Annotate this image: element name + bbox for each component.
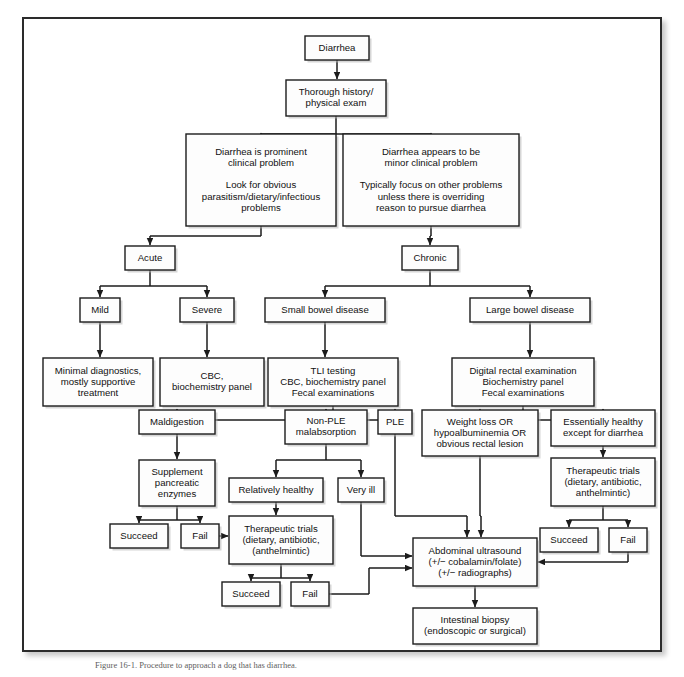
node-label: clinical problem (228, 157, 294, 168)
node-label: physical exam (306, 97, 367, 108)
node-label: Large bowel disease (486, 304, 574, 315)
node-label: (dietary, antibiotic, (564, 476, 641, 487)
node-fail_l: Fail (181, 524, 222, 551)
node-label: parasitism/dietary/infectious (202, 191, 321, 202)
node-fail_r: Fail (609, 528, 650, 555)
node-fail_b: Fail (291, 582, 332, 609)
node-minimal: Minimal diagnostics,mostly supportivetre… (43, 358, 156, 409)
node-label: (dietary, antibiotic, (242, 534, 319, 545)
node-acute: Acute (125, 246, 178, 273)
node-label: Succeed (120, 530, 157, 541)
node-nonple: Non-PLEmalabsorption (285, 410, 370, 447)
node-ultrasound: Abdominal ultrasound(+/− cobalamin/folat… (413, 538, 540, 589)
node-succeed_l: Succeed (110, 524, 171, 551)
node-label: Small bowel disease (281, 304, 368, 315)
node-label: reason to pursue diarrhea (376, 202, 487, 213)
node-label: Digital rectal examination (469, 365, 576, 376)
node-history: Thorough history/physical exam (286, 80, 389, 119)
node-label: Fail (302, 588, 317, 599)
node-label: Weight loss OR (447, 416, 514, 427)
node-label: Fecal examinations (482, 387, 565, 398)
node-largebowel: Large bowel disease (470, 298, 593, 325)
node-succeed_b: Succeed (222, 582, 283, 609)
figure-caption: Figure 16-1. Procedure to approach a dog… (95, 660, 615, 670)
node-label: CBC, (201, 370, 224, 381)
node-label: Acute (138, 252, 163, 263)
node-label: Diarrhea appears to be (382, 146, 480, 157)
node-label: Maldigestion (150, 416, 204, 427)
node-label: (endoscopic or surgical) (424, 625, 526, 636)
node-label: Non-PLE (307, 415, 346, 426)
node-succeed_r: Succeed (540, 528, 601, 555)
node-label: Chronic (413, 252, 446, 263)
node-label: Severe (192, 304, 222, 315)
node-supplement: Supplementpancreaticenzymes (139, 460, 218, 509)
node-prominent: Diarrhea is prominentclinical problemLoo… (186, 134, 339, 229)
node-label: Diarrhea is prominent (215, 146, 307, 157)
node-label: unless there is overriding (378, 191, 485, 202)
node-layer: DiarrheaThorough history/physical examDi… (43, 36, 658, 647)
node-label: enzymes (158, 488, 197, 499)
node-label: hypoalbuminemia OR (434, 427, 526, 438)
node-label: treatment (78, 387, 119, 398)
node-label: PLE (386, 416, 404, 427)
node-label: Supplement (151, 466, 203, 477)
node-label: Therapeutic trials (244, 523, 318, 534)
node-label: Mild (91, 304, 109, 315)
node-severe: Severe (180, 298, 237, 325)
node-veryill: Very ill (338, 478, 387, 505)
node-label: anthelmintic) (576, 487, 630, 498)
node-chronic: Chronic (402, 246, 461, 273)
node-tli: TLI testingCBC, biochemistry panelFecal … (268, 358, 401, 409)
node-label: Relatively healthy (238, 484, 313, 495)
node-label: Fecal examinations (292, 387, 375, 398)
node-label: CBC, biochemistry panel (280, 376, 386, 387)
node-label: TLI testing (311, 365, 356, 376)
flowchart-canvas: DiarrheaThorough history/physical examDi… (0, 0, 684, 677)
node-label: Succeed (550, 534, 587, 545)
node-label: except for diarrhea (563, 427, 644, 438)
node-label: Therapeutic trials (566, 465, 640, 476)
node-theratrials_r: Therapeutic trials(dietary, antibiotic,a… (551, 458, 658, 509)
node-minor: Diarrhea appears to beminor clinical pro… (343, 134, 522, 229)
node-essentially: Essentially healthyexcept for diarrhea (551, 410, 658, 449)
node-ple: PLE (378, 410, 415, 437)
node-label: Essentially healthy (563, 416, 643, 427)
node-mild: Mild (80, 298, 123, 325)
node-label: obvious rectal lesion (437, 438, 524, 449)
node-theratrials_c: Therapeutic trials(dietary, antibiotic,(… (229, 516, 336, 567)
node-label: Fail (620, 534, 635, 545)
node-label: Intestinal biopsy (441, 614, 510, 625)
node-cbc: CBC,biochemistry panel (160, 358, 267, 409)
figure-stage: DiarrheaThorough history/physical examDi… (0, 0, 684, 677)
node-diarrhea: Diarrhea (305, 36, 372, 63)
node-label: Diarrhea (319, 42, 356, 53)
node-label: (+/− cobalamin/folate) (429, 556, 522, 567)
node-relatively: Relatively healthy (229, 478, 326, 505)
node-label: Succeed (232, 588, 269, 599)
node-label: Very ill (347, 484, 375, 495)
node-label: Typically focus on other problems (360, 179, 503, 190)
node-smallbowel: Small bowel disease (265, 298, 388, 325)
node-label: pancreatic (155, 477, 199, 488)
node-label: Fail (192, 530, 207, 541)
node-label: Abdominal ultrasound (429, 545, 522, 556)
node-label: Look for obvious (226, 179, 297, 190)
node-label: mostly supportive (61, 376, 136, 387)
node-label: problems (241, 202, 281, 213)
node-label: Biochemistry panel (482, 376, 563, 387)
node-label: biochemistry panel (172, 381, 252, 392)
node-biopsy: Intestinal biopsy(endoscopic or surgical… (413, 608, 540, 647)
node-label: (anthelmintic) (252, 545, 310, 556)
node-label: malabsorption (296, 426, 356, 437)
node-digital: Digital rectal examinationBiochemistry p… (452, 358, 597, 409)
node-label: Minimal diagnostics, (55, 365, 141, 376)
node-label: (+/− radiographs) (438, 567, 512, 578)
node-weightloss: Weight loss ORhypoalbuminemia ORobvious … (422, 410, 541, 459)
node-label: minor clinical problem (385, 157, 478, 168)
node-maldigestion: Maldigestion (139, 410, 218, 437)
node-label: Thorough history/ (299, 86, 374, 97)
